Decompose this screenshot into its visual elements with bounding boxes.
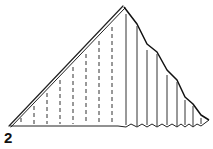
- folding-diagram: [0, 0, 213, 149]
- dashed-fold-lines: [21, 27, 112, 124]
- solid-fold-lines: [126, 14, 201, 126]
- folded-left-edge: [9, 6, 125, 127]
- step-number: 2: [4, 130, 12, 145]
- bottom-edge: [10, 120, 209, 127]
